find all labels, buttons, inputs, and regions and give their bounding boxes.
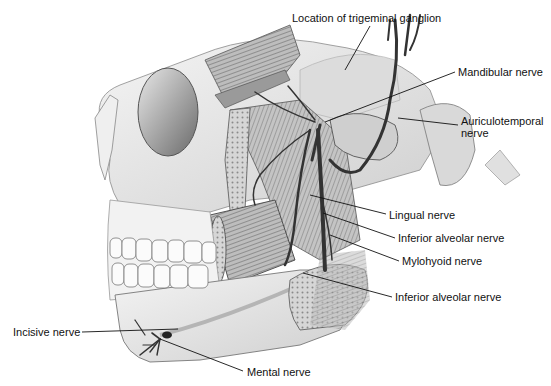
label-incisive-nerve: Incisive nerve	[13, 326, 80, 338]
label-auriculotemporal-nerve-line1: Auriculotemporal	[461, 115, 544, 127]
label-trigeminal-ganglion: Location of trigeminal ganglion	[292, 12, 441, 24]
label-mandibular-nerve: Mandibular nerve	[458, 66, 543, 78]
label-mylohyoid-nerve: Mylohyoid nerve	[402, 255, 482, 267]
label-inferior-alveolar-nerve-upper: Inferior alveolar nerve	[398, 232, 504, 244]
label-mental-nerve: Mental nerve	[247, 366, 311, 378]
orbit	[138, 68, 198, 156]
label-auriculotemporal-nerve-line2: nerve	[461, 127, 489, 139]
label-lingual-nerve: Lingual nerve	[389, 209, 455, 221]
anatomical-illustration	[0, 0, 551, 386]
label-inferior-alveolar-nerve-lower: Inferior alveolar nerve	[395, 291, 501, 303]
